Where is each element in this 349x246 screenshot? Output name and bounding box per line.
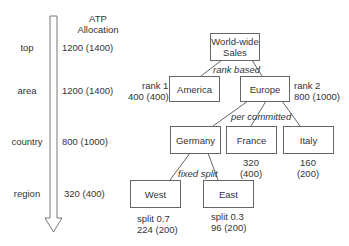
europe-note-rank: rank 2 [294,80,320,91]
down-arrow-icon [45,16,62,232]
diagram-lines [0,0,349,246]
node-france-label: France [237,135,267,146]
america-note-rank: rank 1 [142,80,168,91]
node-west-label: West [145,189,166,200]
france-note-allocation: 320 [236,157,266,168]
level-allocation-top: 1200 (1400) [62,42,113,53]
node-east-label: East [219,189,238,200]
node-germany-label: Germany [176,135,215,146]
level-allocation-region: 320 (400) [64,188,105,199]
level-allocation-country: 800 (1000) [62,136,108,147]
level-label-area: area [12,85,42,96]
level-label-top: top [12,42,42,53]
node-italy: Italy [283,126,334,154]
europe-note-allocation: 800 (1000) [294,91,340,102]
america-note-allocation: 400 (400) [128,91,169,102]
node-europe-label: Europe [250,84,281,95]
west-note-allocation: 224 (200) [137,224,178,235]
node-germany: Germany [170,126,221,154]
level-label-country: country [5,136,49,147]
node-world-wide-sales: World-wide Sales [210,33,260,61]
node-world-wide-sales-line1: World-wide [211,36,258,47]
node-italy-label: Italy [300,135,317,146]
level-allocation-area: 1200 (1400) [62,85,113,96]
italy-note-committed: (200) [293,168,323,179]
edge-label-rank-based: rank based [213,64,260,75]
node-east: East [203,180,254,208]
node-america-label: America [177,84,212,95]
node-world-wide-sales-line2: Sales [223,47,247,58]
node-france: France [226,126,277,154]
atp-header-line1: ATP [78,13,118,24]
edge-label-fixed-split: fixed split [178,168,218,179]
node-europe: Europe [240,76,290,102]
node-west: West [130,180,181,208]
east-note-allocation: 96 (200) [211,222,246,233]
level-label-region: region [10,188,44,199]
france-note-committed: (400) [236,168,266,179]
italy-note-allocation: 160 [293,157,323,168]
edge-label-per-committed: per committed [231,111,291,122]
atp-header-line2: Allocation [66,24,130,35]
node-america: America [169,76,220,102]
east-note-split: split 0.3 [211,211,244,222]
west-note-split: split 0.7 [137,213,170,224]
